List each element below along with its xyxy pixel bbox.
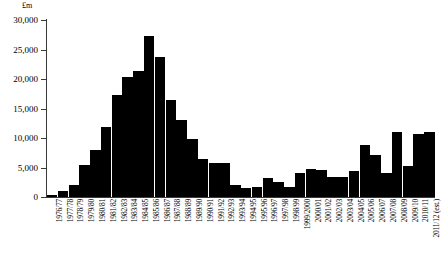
bar	[187, 139, 197, 197]
y-axis-tick	[41, 79, 46, 80]
bar	[381, 173, 391, 197]
y-axis-tick	[41, 168, 46, 169]
bar	[166, 100, 176, 197]
bar	[424, 132, 434, 197]
bar	[392, 132, 402, 197]
x-axis-tick-label: 1984/85	[142, 199, 150, 222]
bar	[349, 171, 359, 197]
x-axis-tick-label: 1982/83	[121, 199, 129, 222]
x-axis-tick-label: 1977/78	[67, 199, 75, 222]
x-axis-tick-label: 1996/97	[271, 199, 279, 222]
x-axis-tick-label: 1980/81	[99, 199, 107, 222]
x-axis-tick-label: 1981/82	[110, 199, 118, 222]
y-axis-tick	[41, 20, 46, 21]
bar	[327, 177, 337, 197]
x-axis-tick-label: 1990/91	[207, 199, 215, 222]
y-axis-tick-label-wrap: 30,000	[0, 16, 38, 25]
x-axis-tick-label: 1994/95	[250, 199, 258, 222]
bar	[360, 145, 370, 197]
x-axis-tick-label: 2004/05	[358, 199, 366, 222]
bar	[230, 185, 240, 197]
bar	[306, 169, 316, 197]
y-axis-tick	[41, 197, 46, 198]
y-axis-tick	[41, 109, 46, 110]
y-axis-tick-label-wrap: 25,000	[0, 46, 38, 55]
bar	[273, 182, 283, 197]
bar	[209, 163, 219, 197]
bar	[241, 188, 251, 197]
y-axis-tick-label: 15,000	[13, 105, 38, 114]
x-axis-tick-label: 1976/77	[56, 199, 64, 222]
y-axis-tick-label-wrap: 15,000	[0, 105, 38, 114]
bar	[155, 57, 165, 197]
y-axis-tick-label: 25,000	[13, 46, 38, 55]
x-axis-tick-label: 1985/86	[153, 199, 161, 222]
x-axis-tick-label: 1995/96	[261, 199, 269, 222]
y-axis-tick	[41, 138, 46, 139]
bar	[69, 185, 79, 197]
bar	[144, 36, 154, 197]
x-axis-tick-label: 2000/01	[315, 199, 323, 222]
y-axis-tick-label-wrap: 10,000	[0, 134, 38, 143]
x-axis-tick-label: 1978/79	[77, 199, 85, 222]
bar	[58, 191, 68, 197]
x-axis-tick-label: 2006/07	[379, 199, 387, 222]
bar	[403, 166, 413, 197]
x-axis-tick-label: 2011/12 (est.)	[433, 199, 441, 238]
x-axis-tick-label: 2005/06	[368, 199, 376, 222]
bar	[263, 178, 273, 197]
bar	[90, 150, 100, 197]
y-axis-tick-label: 10,000	[13, 134, 38, 143]
bar	[252, 187, 262, 197]
y-axis-tick-label: 5,000	[18, 164, 38, 173]
bar	[295, 173, 305, 197]
y-axis-tick	[41, 50, 46, 51]
x-axis-tick-label: 2003/04	[347, 199, 355, 222]
bar	[316, 170, 326, 197]
bar	[198, 159, 208, 197]
x-axis-tick-label: 2009/10	[412, 199, 420, 222]
x-axis-tick-label: 1988/89	[185, 199, 193, 222]
x-axis-tick-label: 1992/93	[228, 199, 236, 222]
x-axis-tick-label: 1999/2000	[304, 199, 312, 229]
bar	[176, 120, 186, 197]
y-axis-tick-label-wrap: 20,000	[0, 75, 38, 84]
x-axis-tick-label: 2001/02	[325, 199, 333, 222]
bars-layer	[47, 20, 435, 197]
x-axis-tick-label: 2002/03	[336, 199, 344, 222]
y-axis-tick-label: 30,000	[13, 16, 38, 25]
x-axis-tick-label: 1979/80	[88, 199, 96, 222]
y-axis-tick-label-wrap: 0	[0, 193, 38, 202]
x-axis-tick-label: 2010/11	[422, 199, 430, 222]
bar	[370, 155, 380, 197]
x-axis-tick-label: 1983/84	[131, 199, 139, 222]
x-axis-tick-label: 1986/87	[164, 199, 172, 222]
bar	[47, 195, 57, 197]
bar	[112, 95, 122, 197]
bar	[133, 71, 143, 197]
y-axis-tick-label-wrap: 5,000	[0, 164, 38, 173]
y-axis-tick-label: 20,000	[13, 75, 38, 84]
y-axis-unit-label: £m	[22, 1, 32, 10]
bar	[284, 187, 294, 197]
x-axis-tick-label: 1997/98	[282, 199, 290, 222]
x-axis-tick-label: 1987/88	[174, 199, 182, 222]
bar	[338, 177, 348, 197]
x-axis-tick-label: 1993/94	[239, 199, 247, 222]
bar	[122, 77, 132, 197]
x-axis-tick-label: 1991/92	[218, 199, 226, 222]
x-axis-tick-label: 1989/90	[196, 199, 204, 222]
bar	[79, 165, 89, 197]
x-axis-tick-label: 1998/99	[293, 199, 301, 222]
bar	[101, 127, 111, 197]
y-axis-tick-label: 0	[34, 193, 39, 202]
x-axis-tick-label: 2008/09	[401, 199, 409, 222]
x-axis-labels: 1976/771977/781978/791979/801980/811981/…	[47, 199, 435, 259]
x-axis-line	[46, 197, 435, 198]
bar	[219, 163, 229, 197]
bar	[413, 134, 423, 197]
x-axis-tick-label: 2007/08	[390, 199, 398, 222]
